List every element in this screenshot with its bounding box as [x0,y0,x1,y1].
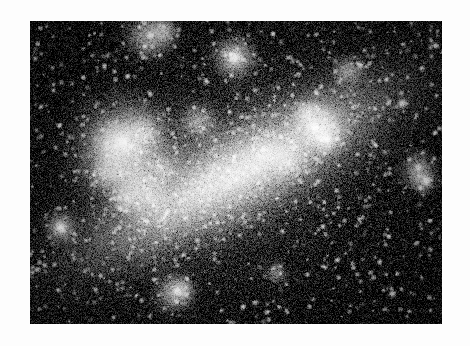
galaxy-photograph [30,21,442,324]
plate-alt-text: Grayscale telescope photograph of a barr… [0,0,1,1]
page-root: Grayscale telescope photograph of a barr… [0,0,470,346]
page-title: Astronomical plate — barred irregular ga… [0,0,1,1]
object-type: barred irregular galaxy [0,0,1,1]
galaxy-image-canvas [30,21,442,324]
chart-title: Barred irregular galaxy — surface bright… [0,0,1,1]
